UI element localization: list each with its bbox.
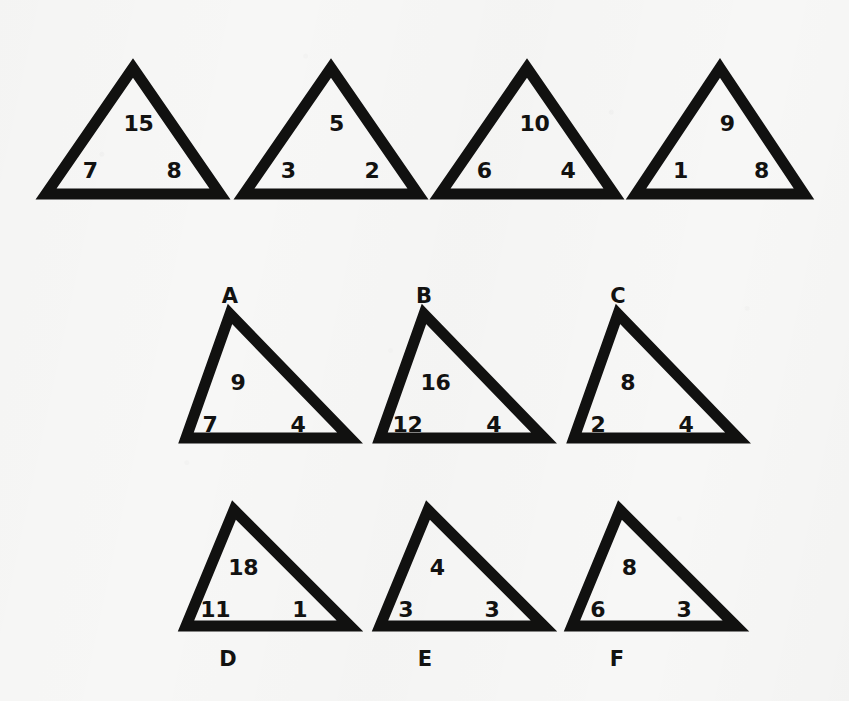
- triangle-example-2[interactable]: 5 3 2: [238, 62, 424, 200]
- puzzle-sheet: 15 7 8 5 3 2 10 6 4 9 1 8 A 9 7 4 B: [0, 0, 849, 701]
- triangle-left-number: 1: [673, 160, 688, 182]
- triangle-left-number: 6: [590, 599, 605, 621]
- triangle-left-number: 11: [200, 599, 230, 621]
- triangle-top-number: 5: [329, 113, 344, 135]
- triangle-right-number: 4: [486, 414, 501, 436]
- triangle-right-number: 1: [292, 599, 307, 621]
- triangle-right-number: 2: [364, 160, 379, 182]
- triangle-example-1[interactable]: 15 7 8: [40, 62, 226, 200]
- triangle-right-number: 4: [560, 160, 575, 182]
- triangle-left-number: 3: [281, 160, 296, 182]
- triangle-example-4[interactable]: 9 1 8: [630, 62, 810, 200]
- triangle-left-number: 3: [398, 599, 413, 621]
- triangle-caption-e: E: [418, 649, 432, 670]
- triangle-right-number: 4: [678, 414, 693, 436]
- triangle-option-d[interactable]: 18 11 1: [180, 504, 356, 632]
- triangle-top-number: 10: [519, 113, 549, 135]
- triangle-top-number: 8: [622, 557, 637, 579]
- triangle-right-number: 3: [484, 599, 499, 621]
- triangle-option-e[interactable]: 4 3 3: [374, 504, 550, 632]
- triangle-right-number: 3: [676, 599, 691, 621]
- triangle-top-number: 9: [720, 113, 735, 135]
- triangle-top-number: 18: [228, 557, 258, 579]
- triangle-caption-c: C: [610, 286, 625, 307]
- triangle-top-number: 16: [421, 372, 451, 394]
- triangle-option-c[interactable]: 8 2 4: [568, 308, 744, 444]
- triangle-left-number: 7: [202, 414, 217, 436]
- triangle-caption-b: B: [416, 286, 432, 307]
- triangle-right-number: 8: [166, 160, 181, 182]
- triangle-caption-a: A: [222, 286, 238, 307]
- triangle-option-a[interactable]: 9 7 4: [180, 308, 356, 444]
- triangle-top-number: 9: [231, 372, 246, 394]
- triangle-left-number: 6: [477, 160, 492, 182]
- triangle-caption-d: D: [219, 649, 236, 670]
- triangle-example-3[interactable]: 10 6 4: [434, 62, 620, 200]
- triangle-left-number: 12: [392, 414, 422, 436]
- triangle-caption-f: F: [610, 649, 624, 670]
- triangle-option-f[interactable]: 8 6 3: [566, 504, 742, 632]
- triangle-left-number: 7: [83, 160, 98, 182]
- triangle-top-number: 15: [124, 113, 154, 135]
- triangle-right-number: 8: [754, 160, 769, 182]
- triangle-top-number: 8: [620, 372, 635, 394]
- triangle-left-number: 2: [590, 414, 605, 436]
- triangle-top-number: 4: [430, 557, 445, 579]
- triangle-option-b[interactable]: 16 12 4: [374, 308, 550, 444]
- triangle-right-number: 4: [290, 414, 305, 436]
